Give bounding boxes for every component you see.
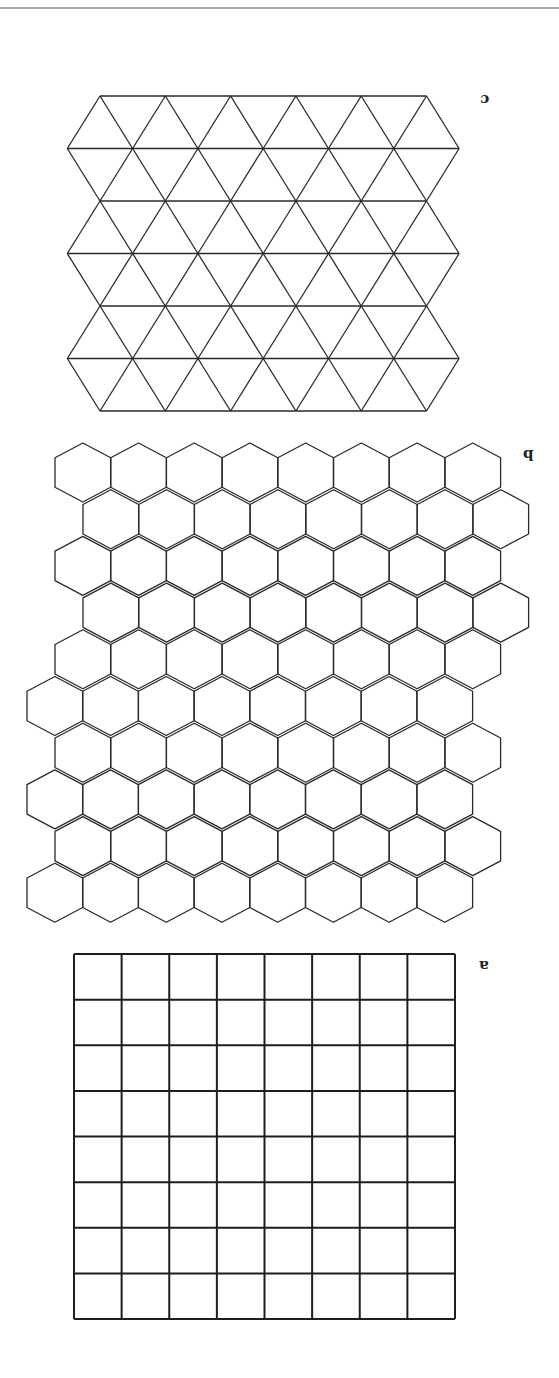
hexagon-cell xyxy=(306,770,362,829)
hexagon-cell xyxy=(166,443,222,502)
hexagon-cell xyxy=(111,817,167,876)
triangle-edge xyxy=(263,149,296,202)
triangle-edge xyxy=(67,96,100,149)
hexagon-cell xyxy=(250,770,306,829)
triangle-edge xyxy=(133,359,166,412)
triangle-edge xyxy=(427,149,460,202)
triangle-edge xyxy=(165,254,198,307)
hexagon-cell xyxy=(278,630,334,689)
hexagon-cell xyxy=(334,443,390,502)
triangle-edge xyxy=(67,201,100,254)
triangle-edge xyxy=(231,359,264,412)
hexagon-cell xyxy=(361,677,417,736)
hexagon-cell xyxy=(306,677,362,736)
hexagon-cell xyxy=(83,863,139,922)
triangle-edge xyxy=(329,254,362,307)
hexagon-cell xyxy=(389,817,445,876)
triangle-edge xyxy=(361,201,394,254)
triangle-edge xyxy=(296,306,329,359)
hexagon-cell xyxy=(278,817,334,876)
hexagon-cell xyxy=(55,723,111,782)
triangle-edge xyxy=(198,149,231,202)
hexagon-cell xyxy=(361,863,417,922)
triangle-edge xyxy=(100,201,133,254)
triangle-edge xyxy=(67,149,100,202)
hexagon-cell xyxy=(166,536,222,595)
hexagon-cell xyxy=(445,630,501,689)
triangle-edge xyxy=(231,96,264,149)
triangle-edge xyxy=(296,359,329,412)
hexagon-cell xyxy=(334,630,390,689)
triangle-edge xyxy=(296,149,329,202)
triangle-edge xyxy=(329,149,362,202)
hexagon-cell xyxy=(27,863,83,922)
triangle-edge xyxy=(198,96,231,149)
hexagon-cell xyxy=(250,863,306,922)
hexagon-cell xyxy=(417,677,473,736)
hexagon-cell xyxy=(473,583,529,642)
triangle-edge xyxy=(231,149,264,202)
hexagon-cell xyxy=(55,630,111,689)
hexagon-cell xyxy=(83,677,139,736)
hexagon-cell xyxy=(138,677,194,736)
triangle-edge xyxy=(67,359,100,412)
hexagon-cell xyxy=(194,490,250,549)
hexagon-cell xyxy=(55,443,111,502)
triangle-edge xyxy=(263,254,296,307)
triangle-edge xyxy=(329,306,362,359)
triangle-edge xyxy=(231,306,264,359)
triangle-edge xyxy=(165,306,198,359)
triangle-edge xyxy=(296,201,329,254)
hexagon-cell xyxy=(250,677,306,736)
triangle-edge xyxy=(165,359,198,412)
hexagon-cell xyxy=(166,723,222,782)
triangle-edge xyxy=(263,306,296,359)
triangle-edge xyxy=(198,359,231,412)
triangle-edge xyxy=(427,201,460,254)
triangle-edge xyxy=(198,254,231,307)
hexagon-cell xyxy=(306,863,362,922)
triangle-edge xyxy=(394,254,427,307)
triangle-edge xyxy=(100,149,133,202)
hexagon-cell xyxy=(389,536,445,595)
triangle-edge xyxy=(394,201,427,254)
hexagon-cell xyxy=(473,490,529,549)
hexagon-cell xyxy=(389,723,445,782)
triangle-edge xyxy=(296,96,329,149)
triangle-edge xyxy=(394,149,427,202)
hexagon-cell xyxy=(417,490,473,549)
hexagon-cell xyxy=(361,770,417,829)
triangle-edge xyxy=(100,96,133,149)
triangle-edge xyxy=(329,201,362,254)
square-grid-panel xyxy=(74,954,455,1319)
triangle-edge xyxy=(296,254,329,307)
hexagon-cell xyxy=(334,536,390,595)
hexagon-cell xyxy=(194,770,250,829)
triangle-edge xyxy=(100,254,133,307)
triangle-edge xyxy=(361,359,394,412)
hexagon-cell xyxy=(27,677,83,736)
triangle-edge xyxy=(165,201,198,254)
hexagon-cell xyxy=(362,490,418,549)
hexagon-cell xyxy=(83,583,139,642)
hexagon-cell xyxy=(55,817,111,876)
hexagon-cell xyxy=(389,443,445,502)
hexagon-cell xyxy=(222,443,278,502)
hexagon-cell xyxy=(55,536,111,595)
hexagon-cell xyxy=(278,536,334,595)
hexagon-cell xyxy=(111,443,167,502)
hexagon-cell xyxy=(194,677,250,736)
hexagon-cell xyxy=(306,583,362,642)
hexagon-cell xyxy=(417,583,473,642)
hexagon-cell xyxy=(138,770,194,829)
triangle-edge xyxy=(100,306,133,359)
hexagon-cell xyxy=(194,863,250,922)
triangle-edge xyxy=(133,201,166,254)
triangle-edge xyxy=(165,96,198,149)
triangle-edge xyxy=(231,254,264,307)
triangle-edge xyxy=(427,306,460,359)
triangle-edge xyxy=(361,306,394,359)
triangle-edge xyxy=(263,359,296,412)
hexagon-tiling-panel xyxy=(27,443,529,922)
hexagon-cell xyxy=(278,723,334,782)
